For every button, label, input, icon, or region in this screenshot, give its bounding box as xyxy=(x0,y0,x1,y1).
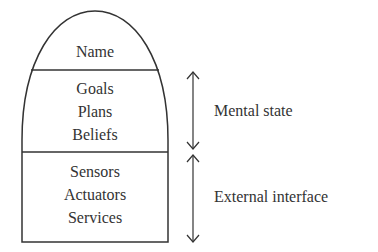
agent-diagram xyxy=(0,0,378,252)
annotation-external-interface: External interface xyxy=(214,189,328,205)
mental-state-arrow xyxy=(187,72,199,149)
section-label-actuators: Actuators xyxy=(64,187,126,203)
section-label-name: Name xyxy=(76,44,114,60)
section-label-plans: Plans xyxy=(78,104,113,120)
section-label-beliefs: Beliefs xyxy=(72,127,117,143)
annotation-mental-state: Mental state xyxy=(214,103,293,119)
section-label-goals: Goals xyxy=(76,81,113,97)
external-interface-arrow xyxy=(187,155,199,242)
section-label-sensors: Sensors xyxy=(70,164,120,180)
section-label-services: Services xyxy=(68,210,122,226)
